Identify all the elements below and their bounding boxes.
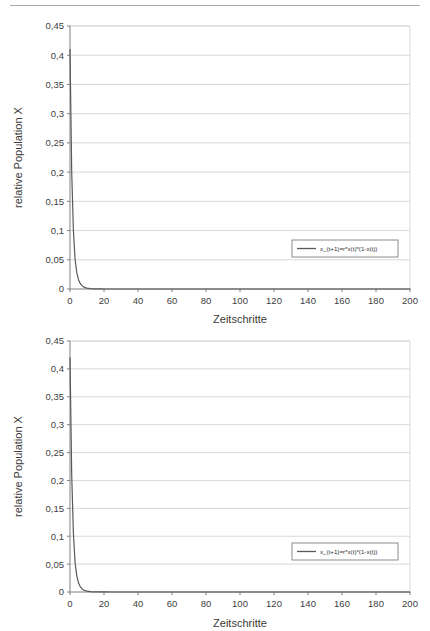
x-tick-label: 200 (402, 598, 418, 609)
y-tick-label: 0,3 (51, 108, 64, 119)
legend-label: x_(t+1)=r*x(t)*(1-x(t)) (320, 548, 377, 555)
legend-label: x_(t+1)=r*x(t)*(1-x(t)) (320, 245, 377, 252)
x-tick-label: 180 (368, 598, 384, 609)
x-tick-label: 120 (266, 598, 282, 609)
y-tick-label: 0,4 (51, 50, 64, 61)
y-tick-label: 0 (59, 283, 64, 294)
x-tick-label: 180 (368, 295, 384, 306)
y-tick-label: 0,35 (46, 391, 65, 402)
line-chart-bottom: 00,050,10,150,20,250,30,350,40,450204060… (0, 335, 430, 631)
x-tick-label: 200 (402, 295, 418, 306)
y-tick-label: 0,3 (51, 419, 64, 430)
x-tick-label: 0 (67, 598, 72, 609)
y-tick-label: 0,05 (46, 559, 65, 570)
x-tick-label: 160 (334, 295, 350, 306)
x-tick-label: 80 (201, 598, 212, 609)
y-tick-label: 0,1 (51, 531, 64, 542)
x-tick-label: 0 (67, 295, 72, 306)
y-tick-label: 0,45 (46, 335, 65, 346)
top-horizontal-rule (10, 5, 420, 6)
y-tick-label: 0,2 (51, 475, 64, 486)
x-tick-label: 40 (133, 598, 144, 609)
y-tick-label: 0,45 (46, 20, 65, 31)
x-tick-label: 60 (167, 598, 178, 609)
y-tick-label: 0,25 (46, 137, 65, 148)
y-tick-label: 0 (59, 586, 64, 597)
x-tick-label: 160 (334, 598, 350, 609)
x-tick-label: 60 (167, 295, 178, 306)
x-tick-label: 140 (300, 295, 316, 306)
y-tick-label: 0,15 (46, 503, 65, 514)
y-tick-label: 0,1 (51, 225, 64, 236)
x-tick-label: 20 (99, 598, 110, 609)
x-axis-title: Zeitschritte (213, 617, 267, 629)
y-axis-title: relative Population X (12, 106, 24, 208)
x-tick-label: 140 (300, 598, 316, 609)
y-tick-label: 0,05 (46, 254, 65, 265)
x-tick-label: 20 (99, 295, 110, 306)
x-tick-label: 100 (232, 295, 248, 306)
x-axis-title: Zeitschritte (213, 313, 267, 324)
chart-panel-bottom: 00,050,10,150,20,250,30,350,40,450204060… (0, 335, 430, 631)
y-axis-title: relative Population X (12, 415, 24, 517)
y-tick-label: 0,25 (46, 447, 65, 458)
x-tick-label: 80 (201, 295, 212, 306)
line-chart-top: 00,050,10,150,20,250,30,350,40,450204060… (0, 14, 430, 324)
x-tick-label: 120 (266, 295, 282, 306)
y-tick-label: 0,15 (46, 196, 65, 207)
y-tick-label: 0,2 (51, 167, 64, 178)
y-tick-label: 0,35 (46, 79, 65, 90)
x-tick-label: 100 (232, 598, 248, 609)
x-tick-label: 40 (133, 295, 144, 306)
y-tick-label: 0,4 (51, 363, 64, 374)
chart-panel-top: 00,050,10,150,20,250,30,350,40,450204060… (0, 14, 430, 324)
